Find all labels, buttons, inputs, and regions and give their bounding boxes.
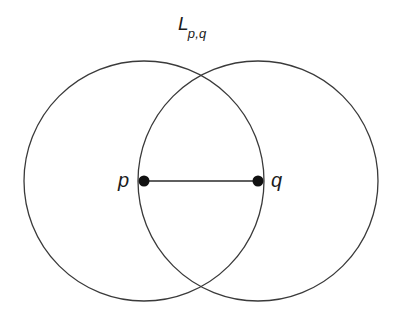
point-p-dot: [139, 176, 150, 187]
lens-label-subscript: p,q: [188, 26, 207, 41]
lens-region-label: Lp,q: [178, 14, 207, 37]
point-p-label: p: [118, 170, 129, 190]
lens-diagram-canvas: [0, 0, 396, 315]
lens-diagram-figure: Lp,q p q: [0, 0, 396, 315]
figure-background: [0, 0, 396, 315]
point-q-label: q: [271, 170, 282, 190]
point-q-dot: [253, 176, 264, 187]
